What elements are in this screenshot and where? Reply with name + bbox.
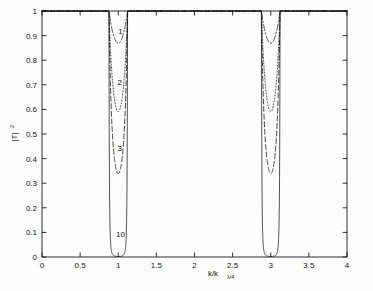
x-axis-title: k/kλ/4 [208, 269, 234, 280]
y-tick-label: 0.5 [26, 130, 38, 139]
svg-text:λ/4: λ/4 [227, 274, 234, 280]
curve-series-1 [42, 11, 347, 43]
x-tick-label: 1 [116, 261, 121, 270]
y-tick-label: 0.2 [26, 204, 38, 213]
y-tick-label: 0.7 [26, 81, 38, 90]
y-axis-title: |T|2 [9, 125, 20, 142]
x-tick-label: 0.5 [75, 261, 87, 270]
x-tick-label: 2 [192, 261, 197, 270]
y-tick-label: 0.4 [26, 155, 38, 164]
svg-text:|T|: |T| [10, 132, 19, 141]
x-tick-label: 4 [345, 261, 350, 270]
svg-text:2: 2 [9, 125, 15, 128]
x-tick-label: 3 [269, 261, 274, 270]
y-tick-label: 0.9 [26, 32, 38, 41]
y-tick-label: 0.3 [26, 179, 38, 188]
svg-text:k/k: k/k [208, 269, 219, 278]
curve-series-10 [42, 11, 347, 256]
x-tick-label: 2.5 [227, 261, 239, 270]
y-tick-label: 0.8 [26, 56, 38, 65]
x-tick-label: 0 [40, 261, 45, 270]
curves-layer [42, 11, 347, 256]
y-tick-label: 0.6 [26, 105, 38, 114]
labels-layer: 00.511.522.533.5400.10.20.30.40.50.60.70… [9, 7, 350, 280]
transmission-plot: 00.511.522.533.5400.10.20.30.40.50.60.70… [0, 0, 373, 291]
figure-panel: 00.511.522.533.5400.10.20.30.40.50.60.70… [0, 0, 373, 291]
curve-annotation-2: 2 [118, 78, 123, 87]
curve-annotation-10: 10 [116, 230, 125, 239]
y-tick-label: 0 [33, 253, 38, 262]
curve-series-2 [42, 11, 347, 112]
y-tick-label: 0.1 [26, 228, 38, 237]
y-tick-label: 1 [33, 7, 38, 16]
axes-frame [42, 11, 347, 257]
curve-annotation-1: 1 [118, 27, 123, 36]
curve-series-3 [42, 11, 347, 174]
x-tick-label: 3.5 [303, 261, 315, 270]
curve-annotation-3: 3 [118, 144, 123, 153]
x-tick-label: 1.5 [151, 261, 163, 270]
axes-layer [42, 11, 347, 257]
